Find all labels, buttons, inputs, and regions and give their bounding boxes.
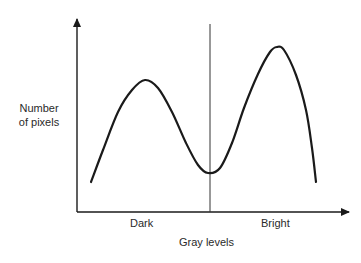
bright-region-label: Bright [261, 217, 290, 230]
histogram-curve [91, 47, 316, 182]
y-axis-label-line-1: Number [10, 101, 68, 115]
dark-region-label: Dark [130, 217, 153, 230]
y-axis-label-line-2: of pixels [10, 115, 68, 129]
histogram-chart [0, 0, 361, 263]
y-axis-label: Number of pixels [10, 101, 68, 129]
x-axis-label: Gray levels [179, 236, 234, 249]
